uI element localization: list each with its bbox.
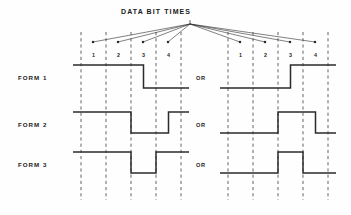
leader-line-3 [143, 24, 190, 42]
timing-diagram-figure: DATA BIT TIMES FORM 1 FORM 2 FORM 3 OR O… [0, 0, 351, 215]
leader-endpoint-dot-7 [289, 41, 291, 43]
leader-lines-group [93, 20, 315, 42]
leader-line-1 [93, 24, 190, 42]
waveform-form-3-right [220, 152, 336, 173]
leader-line-7 [190, 24, 290, 42]
waveform-form-2-right [220, 112, 336, 133]
leader-endpoint-dots-group [92, 41, 316, 43]
leader-endpoint-dot-1 [92, 41, 94, 43]
waveform-form-3-left [73, 152, 189, 173]
waveforms-group [73, 65, 336, 173]
leader-endpoint-dot-6 [264, 41, 266, 43]
leader-endpoint-dot-8 [314, 41, 316, 43]
leader-endpoint-dot-2 [117, 41, 119, 43]
waveform-canvas [0, 0, 351, 215]
leader-endpoint-dot-3 [142, 41, 144, 43]
leader-endpoint-dot-4 [167, 41, 169, 43]
waveform-form-2-left [73, 112, 189, 133]
leader-line-5 [190, 24, 240, 42]
leader-endpoint-dot-5 [239, 41, 241, 43]
bit-boundary-dashed-lines [81, 32, 328, 200]
